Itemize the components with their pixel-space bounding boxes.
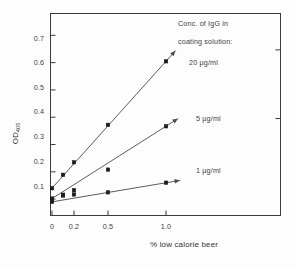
data-point-5--g-ml-0.2 — [72, 188, 76, 192]
data-point-20--g-ml-0.2 — [72, 160, 76, 164]
series-line-1--g-ml — [52, 180, 180, 201]
data-point-1--g-ml-0 — [50, 200, 54, 204]
series-line-20--g-ml — [52, 51, 175, 188]
y-axis-ticks — [51, 35, 56, 199]
data-point-5--g-ml-0 — [50, 197, 54, 201]
series-line-5--g-ml — [52, 119, 178, 199]
series-arrows-group — [170, 51, 180, 184]
data-point-20--g-ml-0.1 — [61, 173, 65, 177]
x-axis-ticks — [52, 211, 166, 216]
data-point-5--g-ml-0.5 — [106, 168, 110, 172]
data-point-1--g-ml-0.2 — [72, 193, 76, 197]
data-point-1--g-ml-0.1 — [61, 194, 65, 198]
series-arrowhead-5--g-ml — [172, 119, 178, 124]
data-point-20--g-ml-0.5 — [106, 123, 110, 127]
data-point-1--g-ml-0.5 — [106, 190, 110, 194]
series-arrowhead-1--g-ml — [174, 179, 180, 184]
data-point-5--g-ml-1 — [164, 124, 168, 128]
right-axis-ticks — [276, 50, 281, 119]
chart-figure: 0.7 0.6 0.5 0.4 0.3 0.2 0.1 0 0.2 0.5 1.… — [0, 0, 296, 267]
data-point-20--g-ml-0 — [50, 186, 54, 190]
data-point-20--g-ml-1 — [164, 59, 168, 63]
chart-vector-layer — [0, 0, 296, 267]
series-markers-group — [50, 59, 168, 203]
data-point-1--g-ml-1 — [164, 181, 168, 185]
series-lines-group — [52, 51, 180, 202]
